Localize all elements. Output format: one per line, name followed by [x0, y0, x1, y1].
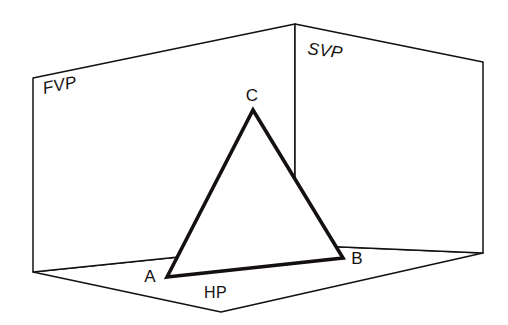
hp-label-group: HP — [204, 284, 227, 301]
vertex-label-a: A — [144, 267, 156, 286]
vertex-label-c: C — [246, 86, 258, 105]
projection-figure: FVP SVP HP A B C — [0, 0, 508, 325]
hp-label: HP — [204, 284, 227, 301]
vertex-label-b: B — [351, 249, 362, 268]
figure-canvas: FVP SVP HP A B C — [0, 0, 508, 325]
